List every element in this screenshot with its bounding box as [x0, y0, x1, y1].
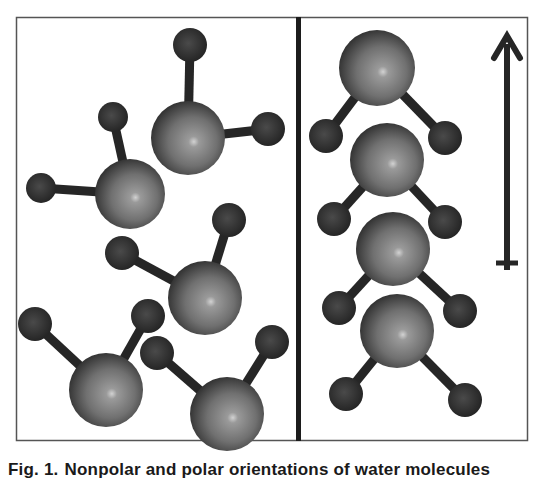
hydrogen-atom	[212, 203, 246, 237]
oxygen-atom	[339, 30, 415, 106]
oxygen-atom	[69, 353, 143, 427]
hydrogen-atom	[443, 294, 477, 328]
oxygen-atom	[360, 294, 434, 368]
hydrogen-atom	[140, 336, 174, 370]
hydrogen-atom	[428, 205, 462, 239]
hydrogen-atom	[317, 202, 351, 236]
figure-caption: Fig. 1.Nonpolar and polar orientations o…	[8, 460, 544, 480]
hydrogen-atom	[309, 119, 343, 153]
hydrogen-atom	[322, 291, 356, 325]
hydrogen-atom	[98, 102, 128, 132]
panel-divider	[296, 17, 301, 441]
oxygen-atom	[350, 123, 424, 197]
figure-label: Fig. 1.	[8, 460, 59, 479]
oxygen-atom	[168, 261, 242, 335]
hydrogen-atom	[329, 377, 363, 411]
hydrogen-atom	[131, 299, 165, 333]
caption-text: Nonpolar and polar orientations of water…	[65, 460, 491, 479]
hydrogen-atom	[428, 121, 462, 155]
oxygen-atom	[95, 159, 165, 229]
hydrogen-atom	[255, 325, 289, 359]
oxygen-atom	[190, 377, 264, 451]
hydrogen-atom	[173, 28, 207, 62]
hydrogen-atom	[18, 307, 52, 341]
oxygen-atom	[356, 212, 430, 286]
figure: Fig. 1.Nonpolar and polar orientations o…	[0, 0, 544, 481]
hydrogen-atom	[105, 236, 139, 270]
hydrogen-atom	[26, 173, 56, 203]
oxygen-atom	[151, 101, 225, 175]
molecule-illustration	[0, 0, 544, 481]
hydrogen-atom	[251, 112, 285, 146]
hydrogen-atom	[448, 383, 482, 417]
